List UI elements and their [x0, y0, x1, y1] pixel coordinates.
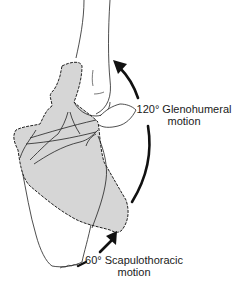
- scapulothoracic-label: 60° Scapulothoracic motion: [80, 254, 188, 278]
- acromion: [98, 104, 136, 127]
- humerus-detail: [92, 70, 104, 94]
- glenohumeral-arc: [132, 126, 149, 202]
- glenohumeral-arc-upper: [120, 68, 138, 98]
- humerus-shaft: [76, 0, 110, 114]
- scapulothoracic-label-line1: 60° Scapulothoracic: [80, 254, 188, 266]
- scapula-rotated: [14, 62, 128, 232]
- scapulothoracic-label-line2: motion: [80, 266, 188, 278]
- glenohumeral-label-line2: motion: [134, 115, 234, 127]
- shoulder-motion-diagram: 120° Glenohumeral motion 60° Scapulothor…: [0, 0, 235, 283]
- glenohumeral-label-line1: 120° Glenohumeral: [134, 103, 234, 115]
- diagram-canvas: [0, 0, 235, 283]
- glenohumeral-label: 120° Glenohumeral motion: [134, 103, 234, 127]
- scapulothoracic-arrow-shaft: [100, 240, 112, 252]
